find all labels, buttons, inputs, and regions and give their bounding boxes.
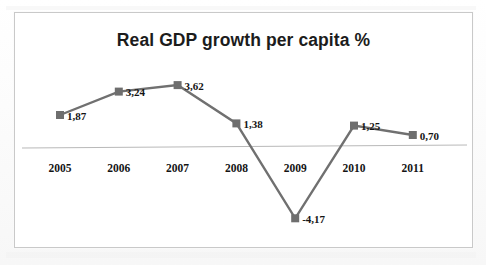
data-value-label: 1,38 [243, 118, 263, 130]
x-axis-tick-label: 2007 [166, 162, 189, 174]
data-value-label: -4,17 [302, 213, 325, 225]
data-point-marker [409, 131, 417, 139]
x-axis-tick-labels: 2005200620072008200920102011 [49, 162, 425, 174]
chart-frame: Real GDP growth per capita % 1,873,243,6… [14, 12, 473, 248]
data-point-marker [56, 111, 64, 119]
scan-artifact-bottom [6, 252, 476, 258]
data-value-label: 3,24 [126, 86, 146, 98]
data-value-label: 1,87 [67, 110, 87, 122]
x-axis-tick-label: 2009 [284, 162, 307, 174]
data-value-label: 3,62 [185, 80, 205, 92]
data-point-marker [174, 81, 182, 89]
x-axis-tick-label: 2010 [343, 162, 366, 174]
data-point-marker [291, 214, 299, 222]
data-point-marker [115, 88, 123, 96]
line-chart-canvas: 1,873,243,621,38-4,171,250,70 2005200620… [15, 13, 474, 249]
data-point-marker [232, 119, 240, 127]
scan-artifact-top [6, 6, 476, 10]
zero-axis-line [22, 145, 467, 148]
data-value-label: 1,25 [361, 120, 381, 132]
data-point-markers [56, 81, 417, 222]
series-line [60, 85, 413, 218]
x-axis-tick-label: 2008 [225, 162, 248, 174]
x-axis-tick-label: 2005 [49, 162, 72, 174]
page-background: Real GDP growth per capita % 1,873,243,6… [0, 0, 486, 265]
x-axis-tick-label: 2011 [402, 162, 425, 174]
x-axis-tick-label: 2006 [107, 162, 130, 174]
data-point-marker [350, 122, 358, 130]
data-value-label: 0,70 [420, 130, 440, 142]
